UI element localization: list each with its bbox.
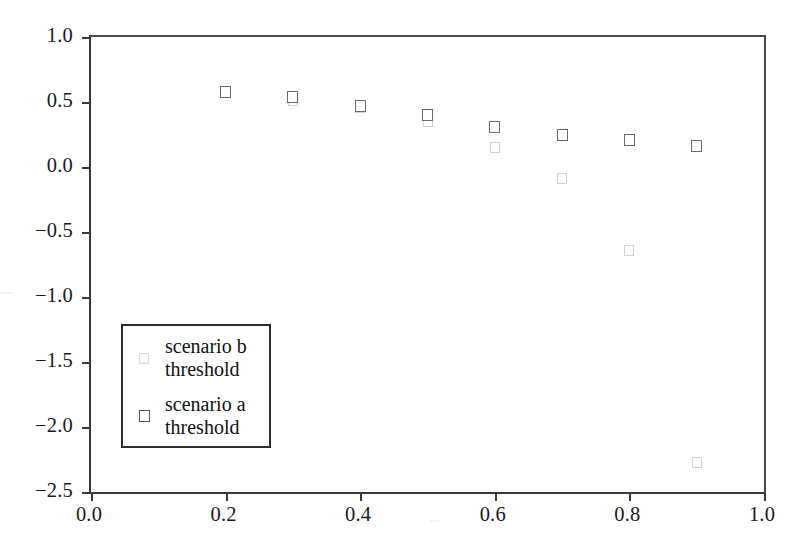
y-axis-tick-label: −1.5 — [0, 350, 73, 371]
y-axis-tick — [82, 37, 91, 39]
y-axis-tick-label: −0.5 — [0, 220, 73, 241]
legend-item-scenario-b[interactable]: scenario b threshold — [123, 330, 269, 386]
x-axis-tick — [226, 492, 228, 501]
data-point-marker — [557, 129, 568, 141]
data-point-marker — [220, 86, 231, 98]
y-axis-tick — [82, 492, 91, 494]
y-axis-tick-label: −2.5 — [0, 480, 73, 501]
y-axis-tick — [82, 297, 91, 299]
scatter-chart-figure: 1.00.50.0−0.5−1.0−1.5−2.0−2.5 0.00.20.40… — [0, 0, 805, 558]
x-axis-tick-label: 0.0 — [49, 504, 129, 525]
x-axis-tick — [764, 492, 766, 501]
open-square-icon — [139, 353, 149, 364]
y-axis-tick-label: 0.5 — [0, 90, 73, 111]
x-axis-tick — [91, 492, 93, 501]
data-point-marker — [490, 142, 500, 153]
legend-item-label: scenario b threshold — [165, 335, 247, 381]
legend-swatch-wrap — [123, 353, 165, 364]
x-axis-tick — [629, 492, 631, 501]
x-axis-tick-label: 0.4 — [318, 504, 398, 525]
y-axis-tick — [82, 427, 91, 429]
y-axis-tick-label: 1.0 — [0, 25, 73, 46]
data-point-marker — [489, 121, 500, 133]
y-axis-tick-label: −1.0 — [0, 285, 73, 306]
x-axis-tick-label: 0.8 — [587, 504, 667, 525]
x-axis-tick-label: 0.2 — [184, 504, 264, 525]
data-point-marker — [692, 457, 702, 468]
data-point-marker — [691, 140, 702, 152]
data-point-marker — [422, 109, 433, 121]
legend-item-label: scenario a threshold — [165, 393, 246, 439]
x-axis-tick — [495, 492, 497, 501]
scan-speckle — [430, 520, 439, 522]
chart-legend[interactable]: scenario b threshold scenario a threshol… — [121, 324, 271, 448]
legend-swatch-wrap — [123, 410, 165, 422]
y-axis-tick-label: −2.0 — [0, 415, 73, 436]
open-square-icon — [139, 410, 150, 422]
y-axis-tick — [82, 362, 91, 364]
data-point-marker — [624, 245, 634, 256]
y-axis-tick-label: 0.0 — [0, 155, 73, 176]
data-point-marker — [287, 91, 298, 103]
y-axis-tick — [82, 167, 91, 169]
y-axis-tick — [82, 102, 91, 104]
x-axis-tick — [360, 492, 362, 501]
x-axis-tick-label: 0.6 — [453, 504, 533, 525]
data-point-marker — [557, 173, 567, 184]
x-axis-tick-label: 1.0 — [722, 504, 802, 525]
data-point-marker — [355, 100, 366, 112]
legend-item-scenario-a[interactable]: scenario a threshold — [123, 388, 269, 444]
data-point-marker — [624, 134, 635, 146]
y-axis-tick — [82, 232, 91, 234]
